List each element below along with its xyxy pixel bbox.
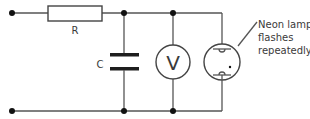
resistor — [48, 6, 102, 21]
junction-bottom-voltmeter — [170, 108, 176, 114]
junction-top-voltmeter — [170, 10, 176, 16]
annotation-line-1: Neon lamp — [258, 19, 310, 30]
annotation-line-3: repeatedly — [258, 45, 310, 56]
terminal-top-left — [9, 10, 15, 16]
lamp-gas-dot — [229, 66, 231, 68]
terminal-bottom-left — [9, 108, 15, 114]
junction-top-capacitor — [121, 10, 127, 16]
capacitor-plate-top — [110, 53, 139, 57]
circuit-diagram: R C V Neon lamp flashes repeatedly — [0, 0, 310, 119]
junction-bottom-capacitor — [121, 108, 127, 114]
resistor-label: R — [72, 25, 79, 36]
voltmeter-symbol: V — [166, 51, 180, 75]
capacitor-label: C — [97, 59, 104, 70]
annotation-line-2: flashes — [258, 32, 293, 43]
annotation-leader-line — [238, 22, 257, 46]
capacitor-plate-bottom — [110, 67, 139, 71]
